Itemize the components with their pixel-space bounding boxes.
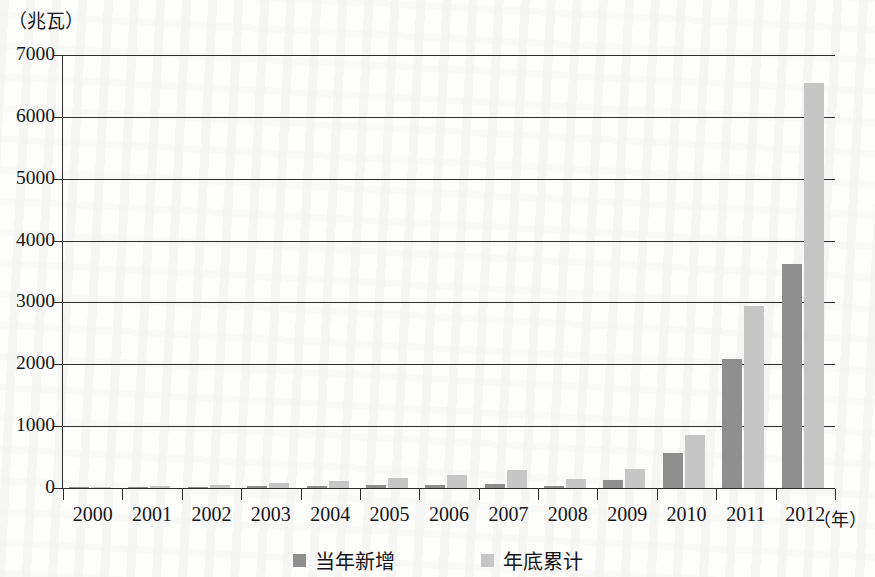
legend-item-new[interactable]: 当年新增	[293, 546, 395, 575]
y-axis-tick-label: 1000	[0, 415, 55, 435]
square-swatch-icon	[481, 554, 494, 567]
chart-page: （兆瓦） （年） 当年新增 年底累计 700060005000400030002…	[0, 0, 875, 577]
y-axis-tick	[54, 488, 63, 489]
x-axis-tick	[122, 489, 123, 500]
y-axis-tick-label: 6000	[0, 106, 55, 126]
bar-group	[360, 55, 419, 488]
x-axis-tick	[716, 489, 717, 500]
bar-new-capacity[interactable]	[425, 485, 445, 488]
bar-group	[241, 55, 300, 488]
y-axis-tick	[54, 426, 63, 427]
y-axis-tick-label: 4000	[0, 230, 55, 250]
bar-cumulative-capacity[interactable]	[507, 470, 527, 488]
bar-new-capacity[interactable]	[603, 480, 623, 488]
bar-cumulative-capacity[interactable]	[329, 481, 349, 488]
bar-group	[63, 55, 122, 488]
legend-item-cumulative[interactable]: 年底累计	[481, 546, 583, 575]
bar-group	[776, 55, 835, 488]
bar-group	[479, 55, 538, 488]
chart-legend: 当年新增 年底累计	[0, 546, 875, 575]
x-axis-tick	[419, 489, 420, 500]
y-axis-tick	[54, 241, 63, 242]
x-axis-tick	[63, 489, 64, 500]
bar-cumulative-capacity[interactable]	[566, 479, 586, 488]
bar-group	[419, 55, 478, 488]
y-axis-unit-label: （兆瓦）	[8, 6, 84, 33]
x-axis-tick-label: 2012	[770, 503, 840, 526]
bar-new-capacity[interactable]	[782, 264, 802, 488]
x-axis-tick	[241, 489, 242, 500]
y-axis-tick-label: 7000	[0, 44, 55, 64]
x-axis-tick	[182, 489, 183, 500]
bar-new-capacity[interactable]	[188, 487, 208, 488]
bar-new-capacity[interactable]	[663, 453, 683, 488]
bar-group	[301, 55, 360, 488]
bar-new-capacity[interactable]	[128, 487, 148, 488]
legend-label-cumulative: 年底累计	[503, 546, 583, 575]
y-axis-tick-label: 2000	[0, 353, 55, 373]
y-axis-tick-label: 5000	[0, 168, 55, 188]
bar-new-capacity[interactable]	[366, 485, 386, 488]
bar-cumulative-capacity[interactable]	[210, 485, 230, 488]
bar-new-capacity[interactable]	[485, 484, 505, 488]
bar-cumulative-capacity[interactable]	[685, 435, 705, 488]
y-axis-tick	[54, 364, 63, 365]
x-axis-tick	[301, 489, 302, 500]
x-axis-tick	[538, 489, 539, 500]
y-axis-tick	[54, 302, 63, 303]
bar-cumulative-capacity[interactable]	[625, 469, 645, 488]
x-axis-tick	[360, 489, 361, 500]
x-axis-tick	[479, 489, 480, 500]
bar-group	[122, 55, 181, 488]
bar-cumulative-capacity[interactable]	[804, 83, 824, 488]
bar-new-capacity[interactable]	[722, 359, 742, 488]
bar-new-capacity[interactable]	[247, 486, 267, 488]
x-axis-tick	[776, 489, 777, 500]
bar-new-capacity[interactable]	[69, 487, 89, 488]
bars-layer	[63, 55, 835, 488]
bar-group	[538, 55, 597, 488]
bar-cumulative-capacity[interactable]	[388, 478, 408, 488]
square-swatch-icon	[293, 554, 306, 567]
y-axis-tick-label: 3000	[0, 291, 55, 311]
bar-cumulative-capacity[interactable]	[269, 483, 289, 488]
bar-group	[182, 55, 241, 488]
bar-group	[597, 55, 656, 488]
bar-cumulative-capacity[interactable]	[447, 475, 467, 488]
bar-group	[657, 55, 716, 488]
bar-cumulative-capacity[interactable]	[150, 486, 170, 488]
bar-cumulative-capacity[interactable]	[91, 487, 111, 488]
bar-group	[716, 55, 775, 488]
y-axis-tick-label: 0	[0, 477, 55, 497]
y-axis-tick	[54, 179, 63, 180]
x-axis-tick	[835, 489, 836, 500]
bar-new-capacity[interactable]	[544, 486, 564, 488]
x-axis-tick	[657, 489, 658, 500]
y-axis-tick	[54, 55, 63, 56]
bar-cumulative-capacity[interactable]	[744, 306, 764, 488]
bar-new-capacity[interactable]	[307, 486, 327, 488]
gridline	[63, 488, 835, 489]
x-axis-tick	[597, 489, 598, 500]
legend-label-new: 当年新增	[315, 546, 395, 575]
y-axis-tick	[54, 117, 63, 118]
